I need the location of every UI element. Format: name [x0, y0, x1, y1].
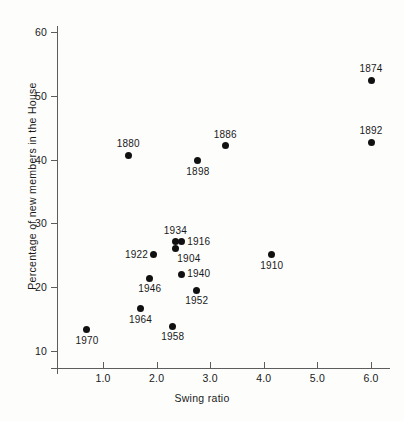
data-point-label: 1886: [214, 129, 237, 140]
y-tick-mark: [51, 351, 57, 352]
x-tick-label: 5.0: [297, 372, 337, 384]
x-axis-line: [51, 368, 390, 369]
y-axis-line: [57, 26, 58, 374]
data-point-label: 1892: [360, 125, 383, 136]
data-point-label: 1898: [186, 166, 209, 177]
data-point-label: 1880: [117, 138, 140, 149]
data-point-label: 1964: [129, 314, 152, 325]
x-tick-mark: [210, 362, 211, 368]
data-point: [222, 142, 229, 149]
y-tick-mark: [51, 160, 57, 161]
x-tick-label: 6.0: [351, 372, 391, 384]
data-point: [193, 287, 200, 294]
data-point-label: 1970: [75, 335, 98, 346]
data-point: [150, 251, 157, 258]
data-point: [268, 251, 275, 258]
data-point-label: 1958: [161, 331, 184, 342]
data-point-label: 1934: [164, 225, 187, 236]
data-point-label: 1940: [187, 268, 210, 279]
y-tick-mark: [51, 32, 57, 33]
y-axis-title: Percentage of new members in the House: [26, 66, 38, 306]
data-point-label: 1952: [185, 295, 208, 306]
scatter-plot-figure: 605040302010 1.02.03.04.05.06.0 18741892…: [0, 0, 404, 421]
data-point: [125, 152, 132, 159]
x-axis-title: Swing ratio: [0, 392, 404, 404]
y-tick-mark: [51, 223, 57, 224]
x-tick-mark: [317, 362, 318, 368]
data-point-label: 1910: [260, 260, 283, 271]
data-point-label: 1874: [360, 63, 383, 74]
data-point: [178, 271, 185, 278]
y-tick-mark: [51, 287, 57, 288]
data-point: [137, 305, 144, 312]
data-point-label: 1922: [125, 249, 148, 260]
y-tick-label: 10: [14, 345, 47, 357]
data-point: [194, 157, 201, 164]
data-point: [368, 139, 375, 146]
y-tick-label: 60: [14, 26, 47, 38]
y-tick-label-text: 10: [21, 345, 47, 357]
y-tick-mark: [51, 96, 57, 97]
x-tick-label: 2.0: [137, 372, 177, 384]
data-point-label: 1904: [177, 253, 200, 264]
x-tick-label: 1.0: [83, 372, 123, 384]
data-point: [146, 275, 153, 282]
data-point: [368, 77, 375, 84]
x-tick-label: 4.0: [244, 372, 284, 384]
x-tick-mark: [157, 362, 158, 368]
x-tick-mark: [264, 362, 265, 368]
x-tick-mark: [371, 362, 372, 368]
data-point: [83, 326, 90, 333]
data-point: [178, 238, 185, 245]
data-point: [172, 245, 179, 252]
data-point-label: 1946: [138, 283, 161, 294]
x-tick-label: 3.0: [190, 372, 230, 384]
data-point-label: 1916: [187, 236, 210, 247]
x-tick-mark: [103, 362, 104, 368]
y-tick-label-text: 60: [21, 26, 47, 38]
data-point: [169, 323, 176, 330]
